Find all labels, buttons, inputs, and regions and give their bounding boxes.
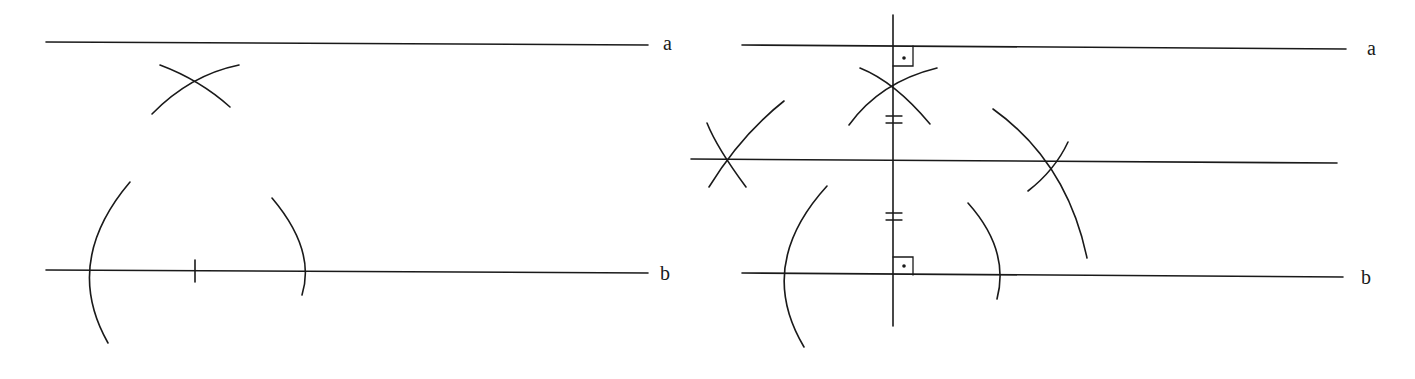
- arc-intersection-1: [160, 65, 230, 107]
- line-b-left: [46, 270, 648, 273]
- left-panel: [46, 42, 648, 343]
- arc-right-big: [993, 109, 1087, 258]
- line-b-right: [742, 273, 1343, 277]
- arc-lower-right: [968, 203, 1000, 299]
- arc-lower-left: [784, 186, 827, 347]
- label-b-right: b: [1361, 267, 1371, 287]
- label-a-left: a: [663, 33, 672, 53]
- arc-right-x-small: [1028, 142, 1068, 191]
- label-a-right: a: [1367, 38, 1376, 58]
- right-angle-dot-bottom: [902, 264, 906, 268]
- line-midparallel: [691, 159, 1337, 163]
- arc-left-lower: [89, 182, 130, 343]
- line-a-right: [742, 45, 1346, 49]
- arc-left-x-2: [709, 101, 784, 187]
- label-b-left: b: [660, 263, 670, 283]
- right-angle-dot-top: [902, 56, 906, 60]
- arc-left-x-1: [707, 123, 746, 187]
- arc-right-lower: [272, 198, 305, 295]
- right-angle-mark-top: [893, 46, 913, 66]
- arc-intersection-2: [152, 65, 239, 114]
- right-panel: [691, 15, 1346, 347]
- line-a-left: [46, 42, 648, 45]
- geometry-construction-figure: [0, 0, 1415, 379]
